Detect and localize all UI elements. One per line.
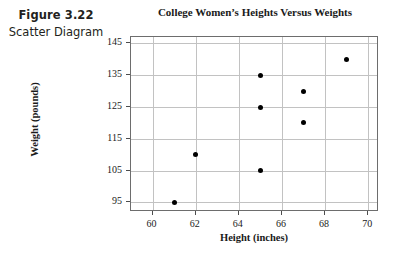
gridline-horizontal <box>131 75 377 76</box>
data-point <box>172 200 177 205</box>
gridline-vertical <box>282 37 283 210</box>
data-point <box>301 89 306 94</box>
data-point <box>258 168 263 173</box>
y-axis-label: Weight (pounds) <box>29 55 40 185</box>
x-tick-label: 68 <box>310 218 338 229</box>
x-tick-label: 62 <box>181 218 209 229</box>
data-point <box>344 57 349 62</box>
gridline-horizontal <box>131 171 377 172</box>
x-tick-label: 60 <box>138 218 166 229</box>
gridline-horizontal <box>131 202 377 203</box>
gridline-vertical <box>153 37 154 210</box>
y-tick-label: 105 <box>96 164 122 175</box>
y-tick-label: 125 <box>96 100 122 111</box>
x-tick-mark <box>152 211 153 215</box>
y-tick-mark <box>126 42 130 43</box>
y-tick-label: 145 <box>96 36 122 47</box>
data-point <box>258 73 263 78</box>
x-tick-label: 64 <box>224 218 252 229</box>
scatter-chart: College Women’s Heights Versus Weights 6… <box>0 0 401 258</box>
x-tick-mark <box>324 211 325 215</box>
x-tick-mark <box>238 211 239 215</box>
y-tick-mark <box>126 74 130 75</box>
plot-area <box>130 36 378 211</box>
y-tick-mark <box>126 201 130 202</box>
gridline-horizontal <box>131 139 377 140</box>
gridline-vertical <box>196 37 197 210</box>
data-point <box>258 105 263 110</box>
y-tick-mark <box>126 170 130 171</box>
data-point <box>193 152 198 157</box>
gridline-horizontal <box>131 107 377 108</box>
x-tick-label: 66 <box>267 218 295 229</box>
x-tick-mark <box>195 211 196 215</box>
x-axis-label: Height (inches) <box>130 232 378 243</box>
gridline-vertical <box>368 37 369 210</box>
y-tick-label: 135 <box>96 68 122 79</box>
x-tick-label: 70 <box>353 218 381 229</box>
y-tick-label: 95 <box>96 195 122 206</box>
x-tick-mark <box>367 211 368 215</box>
gridline-vertical <box>239 37 240 210</box>
chart-title: College Women’s Heights Versus Weights <box>130 6 380 18</box>
y-tick-mark <box>126 106 130 107</box>
x-tick-mark <box>281 211 282 215</box>
y-tick-label: 115 <box>96 132 122 143</box>
gridline-vertical <box>325 37 326 210</box>
gridline-horizontal <box>131 43 377 44</box>
data-point <box>301 120 306 125</box>
y-tick-mark <box>126 138 130 139</box>
